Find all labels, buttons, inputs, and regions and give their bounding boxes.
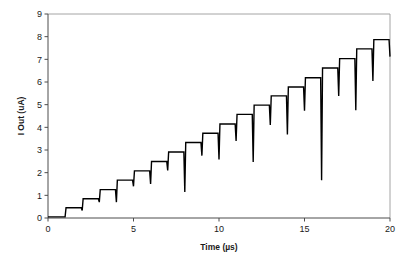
svg-text:2: 2 bbox=[37, 168, 42, 178]
svg-text:8: 8 bbox=[37, 32, 42, 42]
svg-text:15: 15 bbox=[299, 224, 309, 234]
x-axis-title: Time (µs) bbox=[200, 242, 238, 252]
data-series-line bbox=[48, 40, 390, 217]
svg-text:1: 1 bbox=[37, 191, 42, 201]
y-axis-ticks: 0123456789 bbox=[37, 9, 48, 223]
svg-text:0: 0 bbox=[45, 224, 50, 234]
svg-text:4: 4 bbox=[37, 123, 42, 133]
x-axis-ticks: 05101520 bbox=[45, 218, 395, 234]
svg-text:3: 3 bbox=[37, 145, 42, 155]
svg-text:5: 5 bbox=[131, 224, 136, 234]
svg-text:6: 6 bbox=[37, 77, 42, 87]
chart-figure: 0123456789 05101520 Time (µs) I Out (uA) bbox=[0, 0, 415, 261]
svg-text:0: 0 bbox=[37, 213, 42, 223]
svg-text:10: 10 bbox=[214, 224, 224, 234]
svg-text:9: 9 bbox=[37, 9, 42, 19]
chart-plot: 0123456789 05101520 Time (µs) I Out (uA) bbox=[0, 0, 415, 261]
svg-text:5: 5 bbox=[37, 100, 42, 110]
svg-text:7: 7 bbox=[37, 55, 42, 65]
y-axis-title: I Out (uA) bbox=[16, 96, 26, 135]
svg-text:20: 20 bbox=[385, 224, 395, 234]
axis-frame bbox=[48, 14, 390, 218]
